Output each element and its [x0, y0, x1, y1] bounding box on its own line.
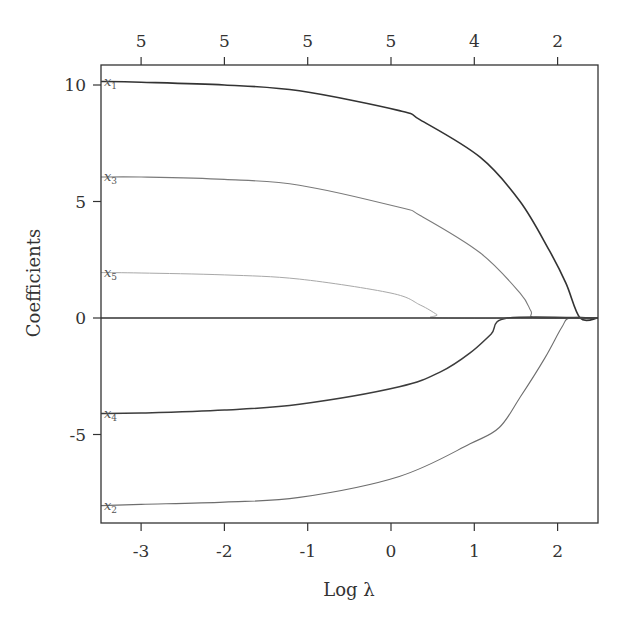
y-tick-label: 10: [64, 75, 86, 95]
top-tick-label: 5: [136, 31, 147, 51]
top-tick-label: 2: [552, 31, 563, 51]
series-label-x4: x4: [104, 406, 117, 423]
top-tick-label: 5: [219, 31, 230, 51]
y-axis: 1050-5: [64, 75, 101, 445]
series-label-x1: x1: [104, 74, 117, 91]
x-axis-title: Log λ: [323, 579, 374, 600]
y-axis-title: Coefficients: [23, 229, 44, 337]
x-tick-label: -1: [299, 541, 316, 561]
x-tick-label: 1: [469, 541, 480, 561]
series-line-x1: [101, 82, 597, 321]
x-axis-top: 555542: [136, 31, 563, 65]
top-tick-label: 4: [469, 31, 480, 51]
y-tick-label: -5: [69, 425, 86, 445]
series-line-x3: [101, 177, 597, 319]
x-tick-label: -2: [216, 541, 233, 561]
x-tick-label: -3: [133, 541, 150, 561]
plot-frame: [101, 65, 598, 523]
plot-area: x1x2x3x4x5: [101, 74, 598, 515]
series-label-x2: x2: [104, 498, 117, 515]
x-tick-label: 0: [386, 541, 397, 561]
series-line-x4: [101, 317, 597, 414]
series-label-x3: x3: [104, 169, 117, 186]
series-label-x5: x5: [104, 265, 117, 282]
y-tick-label: 0: [75, 308, 86, 328]
x-axis-bottom: -3-2-1012: [133, 523, 563, 561]
lasso-coefficient-path-chart: x1x2x3x4x5 -3-2-1012 555542 1050-5 Log λ…: [0, 0, 622, 624]
y-tick-label: 5: [75, 192, 86, 212]
series-line-x5: [101, 273, 597, 319]
top-tick-label: 5: [302, 31, 313, 51]
top-tick-label: 5: [386, 31, 397, 51]
x-tick-label: 2: [552, 541, 563, 561]
